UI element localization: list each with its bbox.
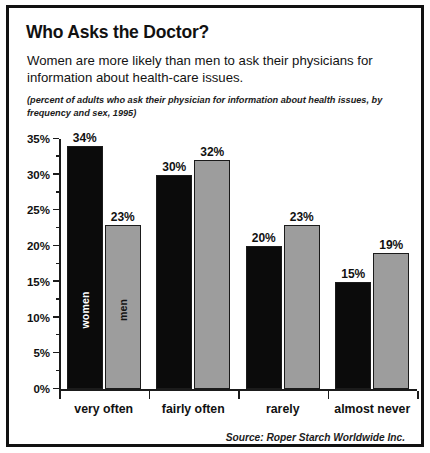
y-tick-major [53, 138, 59, 140]
x-tick [59, 391, 61, 399]
bar-value-label: 23% [111, 210, 135, 224]
x-tick [417, 391, 419, 399]
page-title: Who Asks the Doctor? [26, 22, 209, 43]
plot-area: 0%5%10%15%20%25%30%35% 34%women23%men30%… [59, 139, 417, 391]
bar-value-label: 32% [200, 145, 224, 159]
bar-women: 20% [246, 246, 282, 389]
y-tick-major [53, 173, 59, 175]
x-category-label: very often [74, 402, 133, 416]
x-tick [328, 391, 330, 399]
y-axis-label: 5% [33, 347, 50, 359]
y-axis-line [59, 139, 61, 391]
y-tick-minor [56, 334, 59, 336]
y-axis-label: 35% [27, 133, 50, 145]
y-axis-label: 0% [33, 383, 50, 395]
series-name-men: men [117, 299, 129, 321]
chart-lede: Women are more likely than men to ask th… [27, 52, 411, 86]
y-tick-major [53, 316, 59, 318]
x-tick [149, 391, 151, 399]
y-tick-major [53, 245, 59, 247]
bar-men: 32% [194, 160, 230, 389]
y-tick-minor [56, 370, 59, 372]
y-axis-label: 30% [27, 169, 50, 181]
y-axis-label: 25% [27, 204, 50, 216]
series-name-women: women [79, 291, 91, 328]
bar-men: 23%men [105, 225, 141, 389]
y-tick-minor [56, 263, 59, 265]
bar-value-label: 34% [73, 131, 97, 145]
chart-figure: Who Asks the Doctor? Women are more like… [0, 0, 430, 453]
y-axis-label: 20% [27, 240, 50, 252]
y-tick-major [53, 209, 59, 211]
source-attribution: Source: Roper Starch Worldwide Inc. [226, 432, 405, 443]
bar-value-label: 15% [341, 267, 365, 281]
y-tick-major [53, 280, 59, 282]
bar-women: 30% [156, 175, 192, 389]
y-tick-minor [56, 191, 59, 193]
figure-frame: Who Asks the Doctor? Women are more like… [6, 5, 424, 447]
y-tick-major [53, 352, 59, 354]
bar-women: 15% [335, 282, 371, 389]
bar-women: 34%women [67, 146, 103, 389]
y-tick-minor [56, 227, 59, 229]
bar-men: 19% [373, 253, 409, 389]
y-tick-major [53, 388, 59, 390]
x-category-label: fairly often [162, 402, 225, 416]
y-axis-label: 15% [27, 276, 50, 288]
x-category-label: almost never [334, 402, 410, 416]
bar-value-label: 23% [290, 210, 314, 224]
x-tick [238, 391, 240, 399]
chart-subnote: (percent of adults who ask their physici… [27, 94, 417, 119]
bar-value-label: 30% [162, 160, 186, 174]
bar-value-label: 20% [252, 231, 276, 245]
bar-men: 23% [284, 225, 320, 389]
y-tick-minor [56, 298, 59, 300]
bar-value-label: 19% [379, 238, 403, 252]
x-category-label: rarely [266, 402, 300, 416]
y-axis-label: 10% [27, 312, 50, 324]
y-tick-minor [56, 155, 59, 157]
